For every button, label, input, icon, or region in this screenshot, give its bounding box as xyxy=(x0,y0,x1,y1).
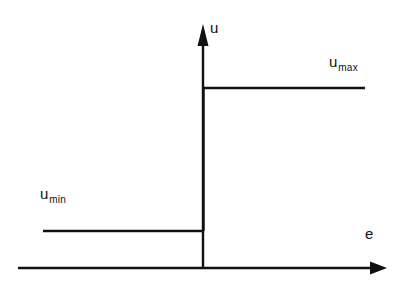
vertical-axis-arrowhead-icon xyxy=(198,24,209,46)
u-max-label-base: u xyxy=(329,53,337,70)
e-axis-label: e xyxy=(365,226,373,241)
u-axis-label: u xyxy=(210,20,218,35)
u-max-label: umax xyxy=(329,54,357,69)
u-min-label: umin xyxy=(40,186,65,201)
relay-characteristic-figure: u e umax umin xyxy=(0,0,407,292)
u-max-label-subscript: max xyxy=(338,62,358,73)
relay-characteristic-curve xyxy=(43,88,365,231)
u-min-label-subscript: min xyxy=(49,194,66,205)
horizontal-axis-arrowhead-icon xyxy=(370,262,387,275)
u-min-label-base: u xyxy=(40,185,48,202)
relay-plot-canvas xyxy=(0,0,407,292)
